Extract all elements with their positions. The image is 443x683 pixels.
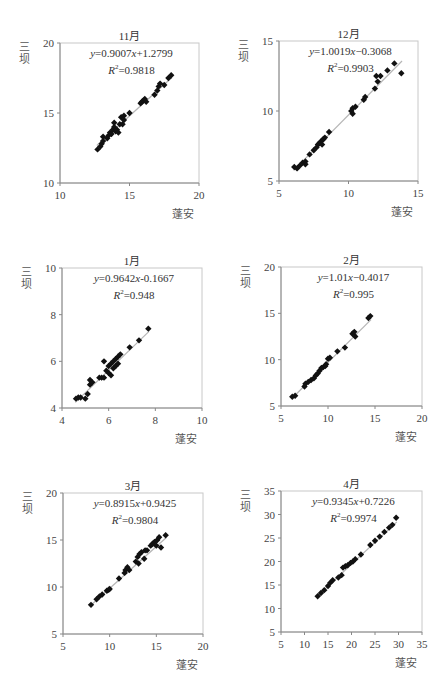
x-tick-label: 10 xyxy=(299,638,310,650)
y-tick-label: 15 xyxy=(255,579,275,591)
x-axis-label: 蓬安 xyxy=(395,654,417,670)
y-tick-label: 25 xyxy=(255,532,275,544)
plot-area xyxy=(0,0,443,683)
y-tick-label: 35 xyxy=(255,485,275,497)
y-tick-label: 20 xyxy=(255,556,275,568)
r-squared: R2=0.9974 xyxy=(330,512,377,524)
x-tick-label: 25 xyxy=(370,638,381,650)
x-tick-label: 20 xyxy=(346,638,357,650)
data-points xyxy=(314,515,399,600)
y-axis-label: 三坝 xyxy=(239,489,251,513)
x-tick-label: 5 xyxy=(278,638,284,650)
x-tick-label: 35 xyxy=(417,638,428,650)
y-tick-label: 5 xyxy=(255,626,275,638)
x-tick-label: 15 xyxy=(323,638,334,650)
x-tick-label: 30 xyxy=(393,638,404,650)
y-tick-label: 30 xyxy=(255,509,275,521)
chart-title: 4月 xyxy=(343,475,360,491)
y-tick-label: 10 xyxy=(255,603,275,615)
trendline-equation: y=0.9345x+0.7226R2=0.9974 xyxy=(312,494,395,525)
